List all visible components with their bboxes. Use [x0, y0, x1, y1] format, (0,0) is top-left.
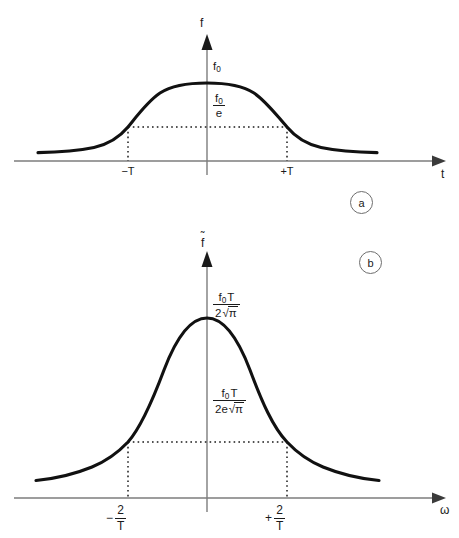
tick-minus-signed-fraction: − 2 T: [106, 504, 126, 532]
y-axis-label-a: f: [200, 17, 203, 30]
panel-a: f f0 f0 e −T +T t a: [0, 0, 459, 230]
level-label-a-denominator: e: [213, 106, 225, 119]
level-label-b-numerator: f0 T: [213, 387, 246, 401]
panel-b-plot: [0, 230, 459, 538]
panel-tag-a: a: [350, 191, 373, 214]
panel-tag-b-letter: b: [367, 257, 373, 269]
level-label-b-sqrt: √π: [228, 402, 244, 415]
peak-label-a: f0: [213, 60, 221, 72]
peak-label-b-denominator: 2√π: [213, 305, 240, 319]
x-axis-label-b: ω: [440, 504, 449, 517]
panel-tag-b: b: [359, 251, 382, 274]
level-label-b: f0 T 2e√π: [213, 387, 246, 415]
tick-label-plus-2-over-T: + 2 T: [265, 504, 285, 532]
y-axis-label-b: ˜f: [201, 237, 204, 250]
figure-gaussian-fourier-pair: f f0 f0 e −T +T t a: [0, 0, 459, 538]
y-axis-arrowhead-a: [202, 34, 213, 50]
level-label-a: f0 e: [213, 92, 225, 119]
level-label-a-fraction: f0 e: [213, 92, 225, 119]
level-label-a-numerator: f0: [213, 92, 225, 106]
peak-label-b-sqrt: √π: [221, 306, 237, 319]
tick-plus-fraction: 2 T: [274, 504, 285, 532]
tick-label-minus-2-over-T: − 2 T: [106, 504, 126, 532]
y-axis-label-b-accent-wrap: ˜f: [201, 237, 204, 250]
x-axis-arrowhead-b: [432, 493, 446, 504]
tick-label-minus-T: −T: [112, 166, 144, 178]
panel-tag-a-letter: a: [358, 197, 364, 209]
panel-b: ˜f f0 T 2√π f0 T 2e√π − 2 T: [0, 230, 459, 538]
tick-plus-signed-fraction: + 2 T: [265, 504, 285, 532]
peak-label-b-fraction: f0 T 2√π: [213, 291, 240, 319]
tick-minus-fraction: 2 T: [115, 504, 126, 532]
x-axis-arrowhead-a: [432, 156, 446, 167]
y-axis-label-b-tilde: ˜: [201, 230, 205, 241]
tick-label-plus-T: +T: [271, 166, 303, 178]
y-axis-arrowhead-b: [202, 251, 213, 267]
panel-a-plot: [0, 0, 459, 230]
level-label-b-denominator: 2e√π: [213, 401, 246, 415]
peak-label-b-numerator: f0 T: [213, 291, 240, 305]
x-axis-label-a: t: [441, 168, 444, 181]
peak-label-b: f0 T 2√π: [213, 291, 240, 319]
level-label-b-fraction: f0 T 2e√π: [213, 387, 246, 415]
peak-label-a-sub: 0: [216, 65, 221, 74]
